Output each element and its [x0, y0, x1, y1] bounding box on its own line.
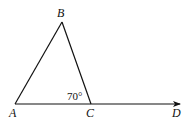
triangle-diagram: B A C D 70° [0, 0, 196, 127]
angle-label-c: 70° [67, 90, 82, 102]
label-point-c: C [86, 106, 95, 120]
label-point-d: D [171, 106, 181, 120]
label-point-b: B [57, 6, 65, 20]
segment-ab [15, 22, 62, 104]
label-point-a: A [8, 106, 17, 120]
